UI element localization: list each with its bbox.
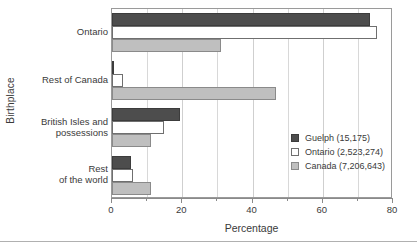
footer-divider (0, 241, 417, 242)
y-axis-tick-label: Restof the world (18, 163, 108, 185)
chart-figure: Birthplace OntarioRest of CanadaBritish … (0, 0, 417, 248)
bar (112, 61, 114, 74)
y-axis-tick-label-line: British Isles and (18, 116, 108, 127)
y-axis-tick-label: Ontario (18, 26, 108, 37)
x-axis-tick-label: 20 (176, 204, 187, 215)
bar (112, 26, 377, 39)
legend-item: Canada (7,206,643) (291, 159, 385, 173)
legend-label: Guelph (15,175) (305, 131, 370, 145)
bar (112, 182, 151, 195)
bar (112, 156, 131, 169)
y-axis-tick-label: Rest of Canada (18, 74, 108, 85)
chart-legend: Guelph (15,175)Ontario (2,523,274)Canada… (291, 131, 385, 173)
x-axis-title: Percentage (111, 222, 392, 234)
legend-swatch (291, 162, 299, 170)
bar (112, 13, 370, 26)
y-axis-tick-labels: OntarioRest of CanadaBritish Isles andpo… (18, 8, 108, 198)
bar (112, 169, 133, 182)
legend-label: Canada (7,206,643) (305, 159, 385, 173)
bar (112, 108, 180, 121)
y-axis-tick-label-line: Rest of Canada (18, 74, 108, 85)
y-axis-title-text: Birthplace (5, 77, 16, 123)
y-axis-tick-label-line: possessions (18, 127, 108, 138)
x-axis-tick-label: 60 (316, 204, 327, 215)
legend-item: Ontario (2,523,274) (291, 145, 385, 159)
x-axis-major-tick (111, 198, 112, 203)
y-axis-tick-label-line: Ontario (18, 26, 108, 37)
x-axis-minor-tick (216, 198, 217, 201)
bar (112, 87, 276, 100)
x-axis-major-tick (392, 198, 393, 203)
y-axis-tick-label-line: Rest (18, 163, 108, 174)
x-axis-major-tick (252, 198, 253, 203)
legend-item: Guelph (15,175) (291, 131, 385, 145)
x-axis-tick-label: 40 (246, 204, 257, 215)
legend-swatch (291, 134, 299, 142)
legend-label: Ontario (2,523,274) (305, 145, 383, 159)
x-axis-major-tick (181, 198, 182, 203)
x-axis-minor-tick (146, 198, 147, 201)
x-axis-tick-label: 0 (108, 204, 113, 215)
x-axis-minor-tick (357, 198, 358, 201)
bar (112, 39, 221, 52)
bar (112, 74, 123, 87)
bar (112, 121, 164, 134)
x-axis-major-tick (322, 198, 323, 203)
y-axis-tick-label: British Isles andpossessions (18, 116, 108, 138)
bar (112, 134, 151, 147)
y-axis-title: Birthplace (2, 0, 18, 200)
legend-swatch (291, 148, 299, 156)
x-axis-minor-tick (287, 198, 288, 201)
y-axis-tick-label-line: of the world (18, 174, 108, 185)
x-axis-tick-label: 80 (387, 204, 398, 215)
